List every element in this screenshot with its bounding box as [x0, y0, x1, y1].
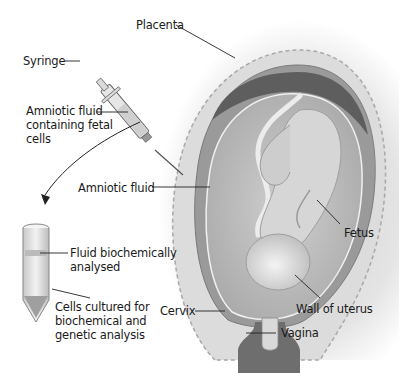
- label-fluid-analysed: Fluid biochemically analysed: [70, 246, 177, 274]
- label-amniotic-fluid: Amniotic fluid: [78, 181, 155, 195]
- label-amniotic-fluid-cells: Amniotic fluid containing fetal cells: [26, 104, 113, 146]
- label-wall-of-uterus: Wall of uterus: [296, 302, 373, 316]
- label-cervix: Cervix: [160, 304, 195, 318]
- label-placenta: Placenta: [136, 18, 184, 32]
- label-syringe: Syringe: [23, 54, 65, 68]
- test-tube: [23, 224, 49, 322]
- label-vagina: Vagina: [281, 326, 319, 340]
- amniocentesis-diagram: Placenta Syringe Amniotic fluid containi…: [0, 0, 399, 373]
- fetus-head: [246, 234, 310, 290]
- label-cells-cultured: Cells cultured for biochemical and genet…: [55, 300, 149, 342]
- label-fetus: Fetus: [344, 226, 374, 240]
- cervix: [262, 318, 278, 350]
- arrow-head-icon: [41, 194, 50, 205]
